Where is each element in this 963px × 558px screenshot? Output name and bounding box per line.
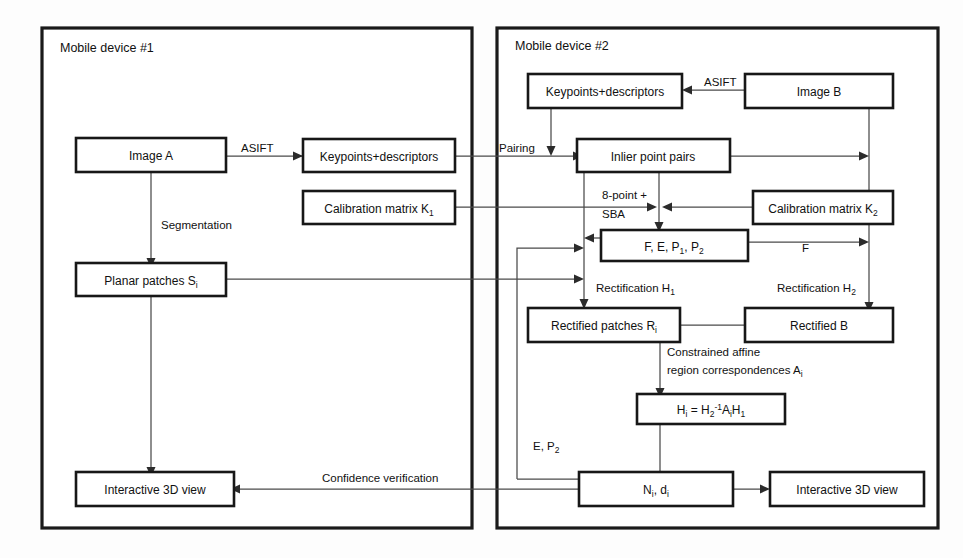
edge-label-segmentation: Segmentation	[161, 219, 232, 231]
ep2-main-text: E, P	[533, 440, 555, 452]
rect-h1-main-text: Rectification H	[596, 282, 670, 294]
node-planar-patches-label: Planar patches Si	[104, 274, 197, 290]
node-interactive-3d-view-left-label: Interactive 3D view	[104, 483, 206, 497]
node-keypoints-descriptors-b-label: Keypoints+descriptors	[546, 85, 664, 99]
node-interactive-3d-view-right-label: Interactive 3D view	[796, 483, 898, 497]
hom-h-text: H	[677, 403, 686, 417]
fep-main1-text: F, E, P	[644, 240, 679, 254]
edge-label-pairing: Pairing	[499, 142, 535, 154]
rect-h1-sub-text: 1	[670, 287, 675, 297]
rect-h2-sub-text: 2	[851, 287, 856, 297]
edge-label-asift-right: ASIFT	[704, 76, 737, 88]
rectified-patches-main-text: Rectified patches R	[551, 319, 655, 333]
k1-sub-text: 1	[429, 208, 434, 218]
rect-h2-main-text: Rectification H	[777, 282, 851, 294]
nd-mid-text: , d	[654, 483, 667, 497]
pipeline-flowchart: Mobile device #1 Mobile device #2	[0, 0, 963, 558]
node-image-b-label: Image B	[797, 85, 842, 99]
nd-sub2-text: i	[667, 489, 669, 499]
fep-main2-text: , P	[684, 240, 699, 254]
k1-main-text: Calibration matrix K	[324, 202, 429, 216]
node-rectified-b-label: Rectified B	[790, 319, 848, 333]
edge-label-constrained-line1: Constrained affine	[667, 346, 760, 358]
k2-sub-text: 2	[873, 208, 878, 218]
panel-title-device-1: Mobile device #1	[60, 41, 154, 55]
node-rectified-patches-label: Rectified patches Ri	[551, 319, 657, 335]
edge-label-8point-line1: 8-point +	[602, 189, 647, 201]
node-image-a-label: Image A	[129, 149, 173, 163]
node-normals-depths-label: Ni, di	[643, 483, 669, 499]
node-inlier-point-pairs-label: Inlier point pairs	[611, 150, 696, 164]
node-calibration-matrix-k1-label: Calibration matrix K1	[324, 202, 434, 218]
planar-sub-text: i	[196, 280, 198, 290]
edge-label-confidence-verification: Confidence verification	[322, 472, 438, 484]
rectified-patches-sub-text: i	[655, 325, 657, 335]
k2-main-text: Calibration matrix K	[768, 202, 873, 216]
nd-main-text: N	[643, 483, 652, 497]
hom-a-text: A	[722, 403, 730, 417]
hom-h1-text: H	[732, 403, 741, 417]
diagram-canvas: Mobile device #1 Mobile device #2	[0, 0, 963, 558]
node-keypoints-descriptors-a-label: Keypoints+descriptors	[320, 150, 438, 164]
constrained-main-text: region correspondences A	[667, 364, 801, 376]
hom-eq-text: = H	[687, 403, 709, 417]
edge-label-f: F	[802, 242, 809, 254]
constrained-sub-text: i	[801, 369, 803, 379]
fep-sub2-text: 2	[699, 246, 704, 256]
edge-label-asift-left: ASIFT	[241, 142, 274, 154]
hom-h1-sub-text: 1	[741, 409, 746, 419]
ep2-sub-text: 2	[555, 445, 560, 455]
edge-label-8point-line2: SBA	[602, 208, 625, 220]
planar-main-text: Planar patches S	[104, 274, 195, 288]
node-calibration-matrix-k2-label: Calibration matrix K2	[768, 202, 878, 218]
node-fep-label: F, E, P1, P2	[644, 240, 704, 256]
panel-title-device-2: Mobile device #2	[515, 39, 609, 53]
